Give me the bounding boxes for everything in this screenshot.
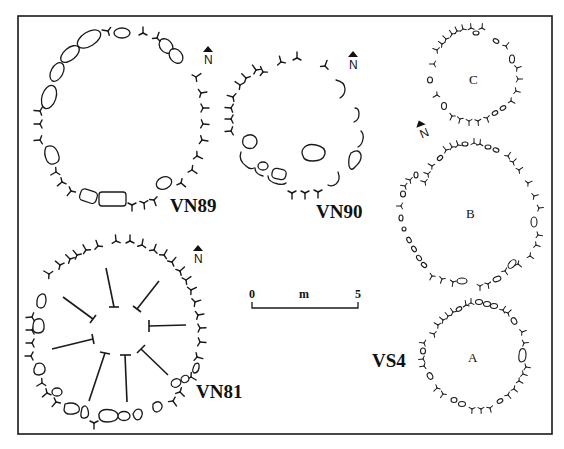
stone: [52, 388, 62, 396]
stone-arc: [240, 152, 254, 169]
north-arrow-vn89: N: [203, 46, 213, 67]
north-arrow-vn81: N: [193, 245, 203, 266]
stone: [39, 83, 60, 110]
ring-c-plan: C: [428, 23, 523, 125]
stone: [428, 77, 433, 83]
scale-bar: 0 m 5: [249, 287, 361, 308]
site-vn81-plan: VN81: [25, 235, 242, 429]
stone: [496, 398, 503, 404]
stone: [455, 306, 462, 312]
stone: [33, 319, 44, 333]
stone: [499, 105, 506, 111]
stone: [462, 142, 468, 146]
site-plan-figure: VN89 VN90: [0, 0, 564, 449]
north-arrow-vs4: N: [414, 119, 431, 142]
stone: [442, 103, 447, 110]
radial-spokes: [52, 268, 186, 402]
svg-text:N: N: [204, 53, 213, 67]
stone: [531, 217, 537, 227]
stone: [414, 172, 418, 178]
stone: [193, 363, 199, 373]
stone: [421, 348, 426, 354]
stone: [436, 155, 443, 162]
stone: [81, 406, 89, 418]
stone: [451, 398, 457, 403]
north-arrow-icon: [193, 245, 203, 251]
stone: [153, 402, 162, 412]
stone: [492, 38, 499, 44]
stone: [491, 304, 498, 309]
stone: [399, 215, 403, 221]
stone: [64, 403, 79, 414]
ring-letter-a: A: [468, 350, 478, 365]
stone: [476, 300, 483, 305]
stone: [411, 245, 418, 252]
stone: [271, 168, 287, 181]
stone: [79, 188, 99, 205]
central-stone: [302, 145, 325, 162]
stone: [118, 412, 130, 421]
site-label-vn81: VN81: [196, 381, 242, 402]
stone: [473, 31, 479, 35]
north-arrow-icon: [203, 46, 213, 52]
stone-arc: [354, 108, 359, 122]
stone-arc: [328, 172, 339, 186]
stone: [45, 146, 59, 164]
site-label-vn89: VN89: [170, 195, 216, 216]
stone: [99, 192, 126, 206]
stone: [37, 294, 46, 308]
scale-unit-label: m: [299, 287, 309, 301]
north-arrow-vn90: N: [348, 51, 358, 72]
stone: [426, 372, 434, 381]
stone: [349, 151, 361, 169]
stone: [484, 302, 491, 307]
ring-b-plan: B: [397, 139, 544, 291]
north-arrow-icon: [348, 51, 358, 57]
svg-text:N: N: [418, 125, 431, 141]
stone-arc: [358, 131, 363, 147]
stone: [506, 258, 517, 270]
stone: [170, 377, 183, 389]
stone: [402, 227, 406, 231]
stone: [492, 147, 499, 153]
svg-text:N: N: [349, 58, 358, 72]
stone: [114, 28, 130, 38]
ring-a-plan: A: [418, 299, 531, 414]
stone: [99, 410, 118, 423]
stone: [154, 174, 174, 192]
site-label-vn90: VN90: [316, 201, 362, 222]
stone: [491, 110, 498, 116]
stone: [47, 60, 67, 83]
scale-bar-line: [252, 302, 358, 308]
stone: [133, 409, 142, 420]
stone: [519, 349, 526, 362]
svg-text:N: N: [194, 252, 203, 266]
stone: [420, 262, 427, 269]
stone: [416, 254, 423, 261]
stone: [510, 55, 515, 63]
stone-arc: [336, 80, 345, 98]
ring-letter-c: C: [469, 72, 478, 87]
stone: [401, 191, 406, 197]
site-vn90-plan: VN90: [225, 52, 364, 222]
site-vn89-plan: VN89: [34, 26, 217, 216]
stone: [459, 402, 466, 407]
scale-start-label: 0: [249, 287, 255, 301]
stone: [457, 278, 467, 284]
site-label-vs4: VS4: [372, 350, 406, 371]
stone: [258, 162, 268, 170]
scale-end-label: 5: [355, 287, 361, 301]
stone: [485, 145, 491, 149]
stone: [510, 317, 518, 326]
stone: [406, 236, 412, 243]
ring-letter-b: B: [466, 206, 475, 221]
stone: [34, 363, 45, 375]
stone: [492, 275, 501, 282]
stone: [243, 135, 257, 149]
